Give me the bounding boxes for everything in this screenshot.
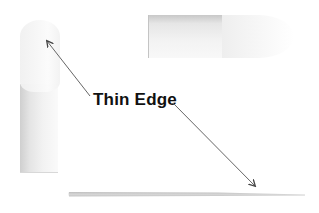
bottom-thin-edge [68,191,306,197]
thin-edge-label: Thin Edge [93,90,177,110]
left-vertical-bar-top [20,20,60,92]
top-horizontal-bar-end [222,15,294,58]
arrow-to-bottom-edge-icon [173,103,255,186]
diagram-canvas: Thin Edge [0,0,319,213]
left-vertical-bar-body [20,84,58,173]
top-horizontal-bar [148,15,229,58]
